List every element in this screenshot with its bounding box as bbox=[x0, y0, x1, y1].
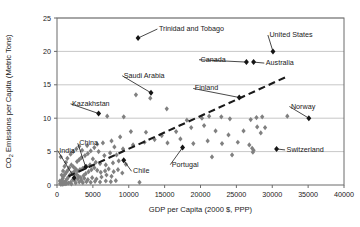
x-ticklabel: 30000 bbox=[262, 190, 282, 199]
scatter-chart: Trinidad and TobagoUnited StatesCanadaAu… bbox=[0, 0, 360, 227]
x-ticklabel: 5000 bbox=[85, 190, 101, 199]
x-ticklabel: 15000 bbox=[155, 190, 175, 199]
point-label: Chile bbox=[133, 166, 149, 175]
x-ticklabel: 10000 bbox=[119, 190, 139, 199]
chart-container: Trinidad and TobagoUnited StatesCanadaAu… bbox=[0, 0, 360, 227]
point-label: Norway bbox=[291, 102, 316, 111]
x-ticklabel: 25000 bbox=[226, 190, 246, 199]
x-ticklabel: 20000 bbox=[191, 190, 211, 199]
y-ticklabel: 10 bbox=[43, 114, 51, 123]
y-ticklabel: 20 bbox=[43, 47, 51, 56]
point-label: Switzerland bbox=[287, 145, 324, 154]
y-ticklabel: 15 bbox=[43, 80, 51, 89]
x-axis-ticklabels: 0500010000150002000025000300003500040000 bbox=[55, 190, 354, 199]
point-label: Kazakhstan bbox=[72, 99, 110, 108]
point-label: China bbox=[79, 138, 98, 147]
point-label: Finland bbox=[195, 83, 219, 92]
x-ticklabel: 40000 bbox=[334, 190, 354, 199]
x-ticklabel: 35000 bbox=[298, 190, 318, 199]
point-label: Saudi Arabia bbox=[124, 71, 165, 80]
y-title-post: Emissions per Capita (Metric Tons) bbox=[4, 34, 13, 154]
point-label: India bbox=[59, 146, 75, 155]
point-label: Portugal bbox=[172, 160, 199, 169]
y-ticklabel: 0 bbox=[47, 181, 51, 190]
point-label: Australia bbox=[266, 58, 294, 67]
point-label: Trinidad and Tobago bbox=[159, 24, 224, 33]
point-label: Canada bbox=[201, 55, 226, 64]
x-ticklabel: 0 bbox=[55, 190, 59, 199]
y-axis-title: CO2 Emissions per Capita (Metric Tons) bbox=[4, 34, 14, 169]
y-ticklabel: 25 bbox=[43, 14, 51, 23]
x-axis-title: GDP per Capita (2000 $, PPP) bbox=[149, 205, 253, 214]
y-title-pre: CO bbox=[4, 157, 13, 168]
y-ticklabel: 5 bbox=[47, 147, 51, 156]
point-label: United States bbox=[269, 30, 313, 39]
